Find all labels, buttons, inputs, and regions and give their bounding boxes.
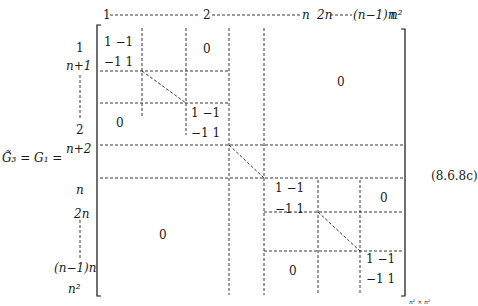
block-22-row1: 1 −1 [191,107,220,119]
zero-bottom-left: 0 [159,229,167,241]
col-label-2n: 2n [317,9,332,21]
row-label-n-1-n: (n−1)n [54,262,97,274]
row-label-2n: 2n [74,208,89,220]
zero-top-right: 0 [337,76,345,88]
zero-left-block: 0 [116,117,124,129]
row-label-2: 2 [76,124,84,136]
block-n2-row2: −1 1 [366,273,395,285]
block-22-row2: −1 1 [191,127,220,139]
zero-top-block: 0 [203,43,211,55]
row-label-n-plus-2: n+2 [66,143,91,155]
block-n2-row1: 1 −1 [366,253,395,265]
block-n1-row1: 1 −1 [275,182,304,194]
col-label-n2: n² [390,9,403,21]
row-label-n2: n² [68,283,81,295]
equation-lhs: G̃₃ = G₁ = [2,152,62,164]
matrix-size-subscript: n² × n² [409,296,430,306]
row-label-n: n [76,184,84,196]
row-label-n-plus-1: n+1 [66,60,91,72]
row-label-1: 1 [76,42,84,54]
block-11-row1: 1 −1 [104,36,133,48]
col-label-1: 1 [103,9,111,21]
block-11-row2: −1 1 [104,56,133,68]
block-n1-row2: −1 1 [275,203,304,215]
col-label-n: n [302,9,310,21]
equation-number: (8.6.8c) [431,170,478,182]
col-label-2: 2 [203,9,211,21]
zero-right-block: 0 [380,192,388,204]
zero-bottom-block: 0 [289,265,297,277]
